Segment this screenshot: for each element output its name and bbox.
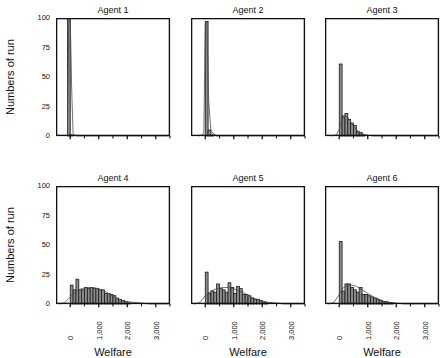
x-tick-label: 1,000 (230, 310, 239, 340)
histogram-bar (85, 287, 88, 304)
histogram-bar (342, 291, 345, 304)
x-axis-title: Welfare (191, 346, 305, 358)
histogram-bar (242, 295, 245, 304)
panel-title-agent-2: Agent 2 (191, 5, 305, 15)
x-tick-label: 1,000 (95, 310, 104, 340)
histogram-bar (217, 284, 220, 304)
histogram-bar (214, 292, 217, 304)
histogram-bar (237, 286, 240, 304)
histogram-bar (99, 290, 102, 304)
histogram-bar (79, 290, 82, 304)
histogram-bar (205, 22, 208, 136)
histogram-bar (93, 289, 96, 304)
x-tick-label: 2,000 (123, 310, 132, 340)
x-tick-label: 0 (66, 310, 75, 340)
histogram-bar (104, 293, 107, 304)
x-tick-label: 3,000 (152, 310, 161, 340)
panel-plot-agent-5 (191, 186, 319, 313)
y-tick-label: 50 (22, 72, 50, 81)
y-tick-label: 0 (22, 299, 50, 308)
x-tick-label: 3,000 (287, 310, 296, 340)
histogram-bar (225, 292, 228, 304)
histogram-bar (354, 290, 357, 304)
y-tick-label: 50 (22, 240, 50, 249)
histogram-bar (245, 295, 248, 304)
histogram-bar (76, 279, 79, 304)
histogram-bar (211, 291, 214, 304)
panel-plot-agent-4 (56, 186, 184, 313)
panel-title-agent-5: Agent 5 (191, 173, 305, 183)
density-curve (66, 18, 170, 136)
x-tick-label: 0 (201, 310, 210, 340)
histogram-bar (362, 295, 365, 304)
plot-frame (57, 19, 170, 136)
histogram-bar (234, 293, 237, 304)
histogram-bar (345, 284, 348, 304)
x-axis-title: Welfare (56, 346, 170, 358)
histogram-bar (205, 272, 208, 304)
histogram-bar (90, 287, 93, 304)
histogram-bar (87, 289, 90, 304)
y-tick-label: 25 (22, 102, 50, 111)
x-tick-label: 0 (335, 310, 344, 340)
histogram-bar (356, 292, 359, 304)
x-tick-label: 1,000 (364, 310, 373, 340)
histogram-bar (228, 283, 231, 304)
plot-frame (326, 187, 439, 304)
density-curve (200, 22, 305, 136)
histogram-bar (208, 293, 211, 304)
histogram-bar (107, 293, 110, 304)
histogram-bar (222, 290, 225, 304)
histogram-bar (82, 290, 85, 304)
histogram-bar (348, 284, 351, 304)
y-tick-label: 100 (22, 13, 50, 22)
panel-plot-agent-2 (191, 18, 319, 145)
y-tick-label: 0 (22, 131, 50, 140)
x-tick-label: 2,000 (258, 310, 267, 340)
y-axis-title: Numbers of run (4, 194, 16, 296)
panel-title-agent-1: Agent 1 (56, 5, 170, 15)
panel-title-agent-6: Agent 6 (325, 173, 439, 183)
x-axis-title: Welfare (325, 346, 439, 358)
y-tick-label: 75 (22, 211, 50, 220)
plot-frame (192, 187, 305, 304)
y-tick-label: 25 (22, 270, 50, 279)
panel-plot-agent-6 (325, 186, 446, 313)
histogram-bar (220, 289, 223, 304)
histogram-bar (231, 287, 234, 304)
plot-frame (192, 19, 305, 136)
panel-title-agent-3: Agent 3 (325, 5, 439, 15)
histogram-bar (96, 289, 99, 304)
y-tick-label: 75 (22, 43, 50, 52)
y-axis-title: Numbers of run (4, 26, 16, 128)
panel-plot-agent-3 (325, 18, 446, 145)
histogram-bar (348, 119, 351, 136)
histogram-bar (365, 295, 368, 304)
x-tick-label: 3,000 (421, 310, 430, 340)
plot-frame (57, 187, 170, 304)
y-tick-label: 100 (22, 181, 50, 190)
panel-plot-agent-1 (56, 18, 184, 145)
histogram-bar (351, 287, 354, 304)
panel-title-agent-4: Agent 4 (56, 173, 170, 183)
x-tick-label: 2,000 (392, 310, 401, 340)
histogram-bar (102, 290, 105, 304)
